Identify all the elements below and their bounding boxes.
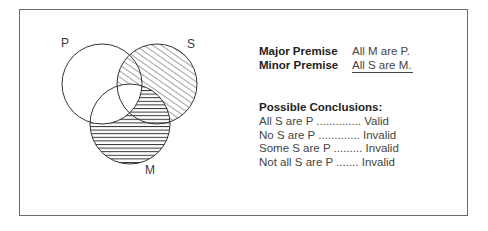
leader-dots: .............	[315, 129, 360, 141]
conclusion-row: Not all S are P ....... Invalid	[259, 156, 399, 169]
conclusions-title: Possible Conclusions:	[259, 101, 399, 114]
conclusions: Possible Conclusions: All S are P ......…	[259, 101, 399, 169]
venn-diagram	[0, 0, 488, 231]
conclusion-statement: Some S are P	[259, 142, 330, 154]
leader-dots: ..............	[313, 115, 361, 127]
conclusion-row: All S are P .............. Valid	[259, 115, 399, 128]
minor-premise-value: All S are M.	[352, 58, 413, 73]
minor-premise: Minor Premise All S are M.	[259, 58, 413, 73]
label-s: S	[187, 37, 195, 51]
premises: Major Premise All M are P. Minor Premise…	[259, 44, 413, 73]
conclusion-result: Invalid	[359, 156, 395, 168]
major-premise-label: Major Premise	[259, 44, 352, 58]
conclusion-statement: All S are P	[259, 115, 313, 127]
leader-dots: .......	[333, 156, 359, 168]
conclusion-row: Some S are P ......... Invalid	[259, 142, 399, 155]
leader-dots: .........	[330, 142, 362, 154]
conclusion-result: Invalid	[360, 129, 396, 141]
conclusion-statement: Not all S are P	[259, 156, 333, 168]
major-premise-value: All M are P.	[352, 44, 410, 58]
minor-premise-label: Minor Premise	[259, 58, 352, 73]
label-m: M	[145, 163, 155, 177]
major-premise: Major Premise All M are P.	[259, 44, 413, 58]
label-p: P	[61, 36, 69, 50]
conclusion-result: Valid	[361, 115, 389, 127]
conclusion-row: No S are P ............. Invalid	[259, 129, 399, 142]
conclusion-statement: No S are P	[259, 129, 315, 141]
conclusion-result: Invalid	[362, 142, 398, 154]
